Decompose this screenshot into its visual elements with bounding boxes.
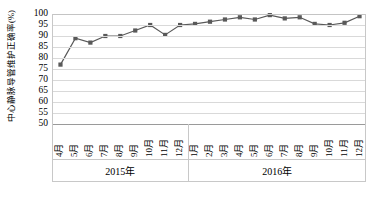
y-tick-label: 55 xyxy=(39,108,49,118)
data-point-marker xyxy=(283,16,287,20)
x-tick-label: 4月 xyxy=(235,144,244,158)
gridline xyxy=(53,80,365,81)
x-tick-label: 11月 xyxy=(160,139,169,157)
gridline xyxy=(53,36,365,37)
gridline xyxy=(53,102,365,103)
group-divider xyxy=(188,124,189,159)
y-tick-label: 75 xyxy=(39,64,49,74)
gridline xyxy=(53,113,365,114)
data-point-marker xyxy=(253,17,257,21)
x-tick-label: 10月 xyxy=(145,139,154,157)
x-tick-label: 12月 xyxy=(175,139,184,157)
gridline xyxy=(53,69,365,70)
y-tick-label: 90 xyxy=(39,31,49,41)
y-tick-label: 100 xyxy=(34,9,48,19)
y-tick-label: 50 xyxy=(39,119,49,129)
x-tick-label: 12月 xyxy=(355,139,364,157)
data-point-marker xyxy=(58,63,62,67)
plot-area xyxy=(52,14,366,124)
year-group-label: 2016年 xyxy=(188,160,367,181)
group-divider xyxy=(188,160,189,181)
x-tick-label: 1月 xyxy=(190,144,199,158)
chart-container: 中心静脉导管维护正确率(%) 10095908580757065605550 4… xyxy=(0,0,374,202)
y-tick-label: 80 xyxy=(39,53,49,63)
y-tick-label: 60 xyxy=(39,97,49,107)
y-tick-label: 95 xyxy=(39,20,49,30)
x-tick-label: 6月 xyxy=(85,144,94,158)
x-tick-label: 5月 xyxy=(250,144,259,158)
x-tick-label: 11月 xyxy=(340,139,349,157)
data-point-marker xyxy=(298,15,302,19)
y-tick-label: 85 xyxy=(39,42,49,52)
x-tick-label: 5月 xyxy=(70,144,79,158)
x-tick-label: 7月 xyxy=(100,144,109,158)
data-point-marker xyxy=(223,17,227,21)
y-axis-title: 中心静脉导管维护正确率(%) xyxy=(4,0,16,132)
gridline xyxy=(53,14,365,15)
x-tick-label: 10月 xyxy=(325,139,334,157)
data-point-marker xyxy=(133,28,137,32)
x-tick-label: 4月 xyxy=(55,144,64,158)
gridline xyxy=(53,58,365,59)
x-tick-label: 8月 xyxy=(115,144,124,158)
x-tick-label: 9月 xyxy=(310,144,319,158)
y-axis-tick-labels: 10095908580757065605550 xyxy=(22,8,48,130)
gridline xyxy=(53,91,365,92)
x-tick-label: 8月 xyxy=(295,144,304,158)
x-tick-label: 6月 xyxy=(265,144,274,158)
x-tick-label: 7月 xyxy=(280,144,289,158)
y-tick-label: 65 xyxy=(39,86,49,96)
data-point-marker xyxy=(208,20,212,24)
x-axis-group-labels: 2015年2016年 xyxy=(52,160,366,182)
data-point-marker xyxy=(238,15,242,19)
data-point-marker xyxy=(88,41,92,45)
gridline xyxy=(53,25,365,26)
x-tick-label: 3月 xyxy=(220,144,229,158)
x-axis-tick-labels: 4月5月6月7月8月9月10月11月12月1月2月3月4月5月6月7月8月9月1… xyxy=(52,124,366,160)
x-tick-label: 2月 xyxy=(205,144,214,158)
year-group-label: 2015年 xyxy=(53,160,188,181)
gridline xyxy=(53,47,365,48)
x-tick-label: 9月 xyxy=(130,144,139,158)
y-tick-label: 70 xyxy=(39,75,49,85)
